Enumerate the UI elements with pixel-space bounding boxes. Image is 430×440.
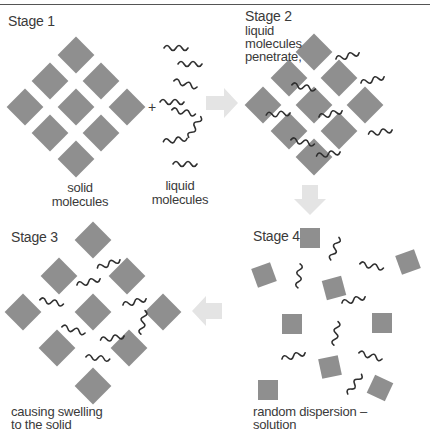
label-line: molecules [150, 193, 210, 207]
stage-1-title: Stage 1 [8, 14, 55, 28]
plus-sign: + [148, 99, 156, 115]
liquid-molecules-label: liquid molecules [150, 179, 210, 207]
caption-line: to the solid [11, 418, 102, 431]
stage-4-dispersed-molecules [251, 228, 421, 401]
stage-2-caption: liquid molecules penetrate, [245, 24, 302, 63]
caption-line: penetrate, [245, 50, 302, 63]
label-line: molecules [50, 195, 110, 209]
stage-2-title: Stage 2 [245, 9, 292, 23]
arrow-down-icon [294, 185, 326, 215]
stage-1-liquid-molecules [160, 46, 203, 167]
arrow-left-icon [192, 296, 222, 326]
stage-3-title: Stage 3 [11, 230, 58, 244]
stage-3-caption: causing swelling to the solid [11, 405, 102, 431]
stage-3-swollen-lattice [5, 222, 182, 405]
stage-4-title: Stage 4 [253, 229, 300, 243]
dissolution-diagram: + [0, 0, 430, 440]
solid-molecules-label: solid molecules [50, 181, 110, 209]
caption-line: solution [253, 418, 367, 431]
stage-1-solid-lattice [7, 37, 146, 178]
arrow-right-icon [206, 88, 238, 118]
stage-4-caption: random dispersion – solution [253, 405, 367, 431]
label-line: solid [50, 181, 110, 195]
label-line: liquid [150, 179, 210, 193]
